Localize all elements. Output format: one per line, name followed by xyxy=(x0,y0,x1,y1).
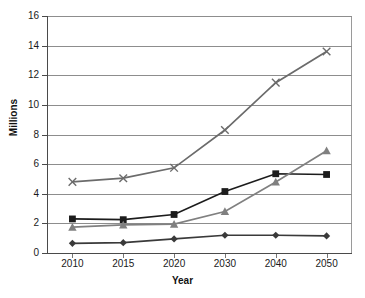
y-axis-tick-label: 16 xyxy=(15,11,39,21)
gridline xyxy=(47,46,352,47)
x-axis-tick-label: 2020 xyxy=(152,258,196,269)
y-axis-tick-label: 14 xyxy=(15,41,39,51)
x-axis-tick-label: 2030 xyxy=(203,258,247,269)
y-axis-tick-label: 6 xyxy=(15,159,39,169)
line-chart: 0246810121416 201020152020203020402050 M… xyxy=(0,0,365,298)
y-axis-tick-label: 10 xyxy=(15,100,39,110)
gridline xyxy=(47,194,352,195)
y-axis-title: Millions xyxy=(8,83,19,153)
x-axis-tick-label: 2010 xyxy=(50,258,94,269)
y-axis-tick-label: 2 xyxy=(15,218,39,228)
x-axis-tick-label: 2040 xyxy=(254,258,298,269)
y-axis-tick-label: 8 xyxy=(15,130,39,140)
x-axis-tick-label: 2015 xyxy=(101,258,145,269)
gridline xyxy=(47,105,352,106)
y-axis-tick-label: 4 xyxy=(15,189,39,199)
gridline xyxy=(47,75,352,76)
gridline xyxy=(47,16,352,17)
gridline xyxy=(47,164,352,165)
y-axis-tick-label: 0 xyxy=(15,248,39,258)
gridline xyxy=(47,135,352,136)
y-axis-tick-label: 12 xyxy=(15,70,39,80)
gridline xyxy=(47,223,352,224)
x-axis-line xyxy=(47,253,352,254)
x-axis-tick-label: 2050 xyxy=(305,258,349,269)
y-axis-line xyxy=(47,16,48,254)
x-axis-title: Year xyxy=(0,275,365,286)
